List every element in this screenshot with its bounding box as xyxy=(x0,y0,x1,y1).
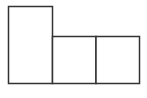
tall-rectangle xyxy=(9,7,53,84)
shapes-diagram xyxy=(0,0,147,98)
middle-square xyxy=(53,37,97,84)
right-square xyxy=(96,37,140,84)
